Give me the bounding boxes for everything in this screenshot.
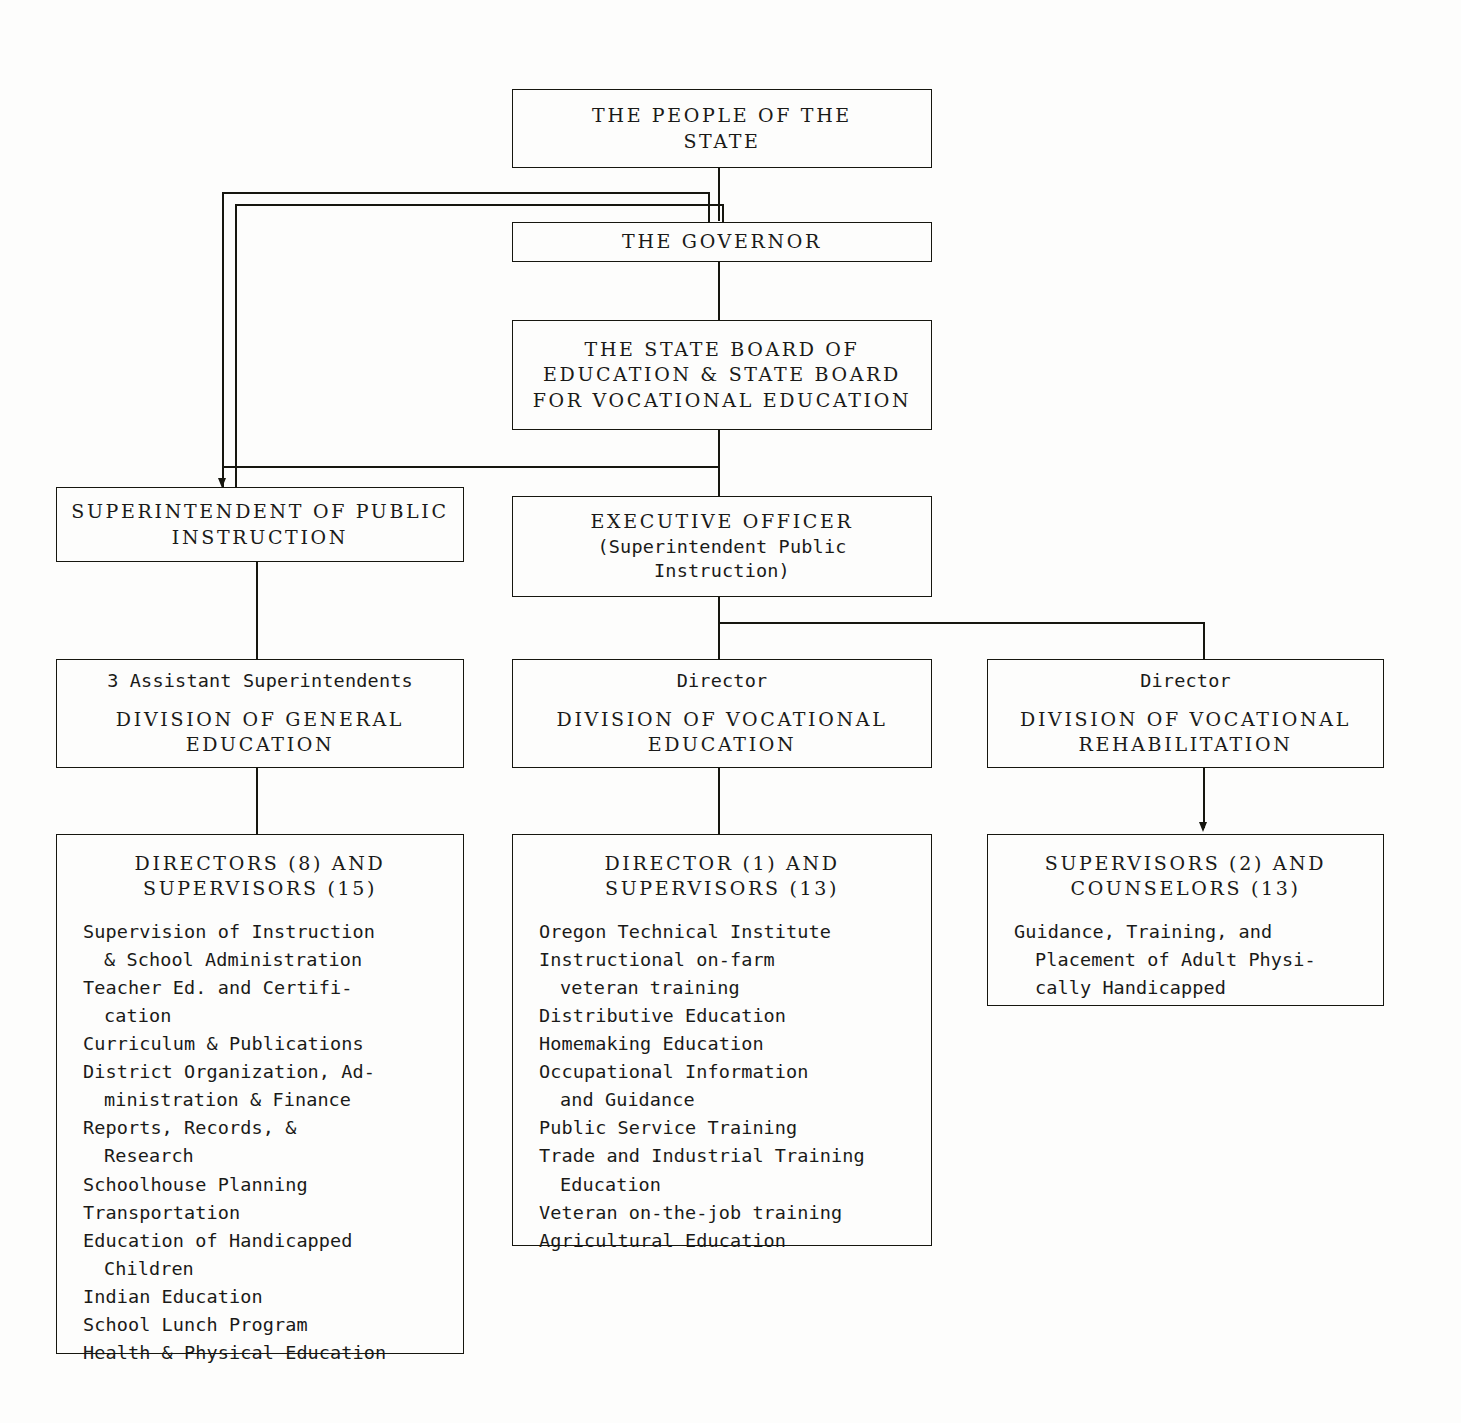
connector-rail-top-outer-drop: [708, 192, 710, 222]
staff-item: Homemaking Education: [539, 1030, 931, 1058]
staff-item: and Guidance: [539, 1086, 931, 1114]
node-body: SUPERINTENDENT OF PUBLIC INSTRUCTION: [57, 488, 463, 561]
node-the-governor[interactable]: THE GOVERNOR: [512, 222, 932, 262]
node-line: EDUCATION: [186, 732, 335, 757]
node-head: Director: [677, 669, 768, 694]
connector-rail-top-inner: [235, 204, 722, 206]
connector-rail-left-inner: [235, 204, 237, 491]
staff-item: Supervision of Instruction: [83, 918, 463, 946]
node-body: Director DIVISION OF VOCATIONAL EDUCATIO…: [513, 660, 931, 767]
connector-people-to-governor: [718, 168, 720, 221]
staff-item: Transportation: [83, 1199, 463, 1227]
staff-item: Veteran on-the-job training: [539, 1199, 931, 1227]
connector-superintendent-to-div-general: [256, 562, 258, 659]
connector-state-board-drop: [718, 430, 720, 466]
node-line: REHABILITATION: [1079, 732, 1293, 757]
node-vocational-rehabilitation-staff[interactable]: SUPERVISORS (2) AND COUNSELORS (13) Guid…: [987, 834, 1384, 1006]
connector-state-board-to-superintendent: [222, 466, 720, 468]
node-line: FOR VOCATIONAL EDUCATION: [533, 388, 912, 413]
node-executive-officer[interactable]: EXECUTIVE OFFICER (Superintendent Public…: [512, 496, 932, 597]
node-line: THE STATE BOARD OF: [585, 337, 860, 362]
staff-header: DIRECTOR (1) AND SUPERVISORS (13): [513, 849, 931, 902]
connector-executive-officer-branch-right: [718, 622, 1205, 624]
staff-header-line: SUPERVISORS (2) AND: [988, 851, 1383, 876]
node-body: EXECUTIVE OFFICER (Superintendent Public…: [513, 497, 931, 596]
node-division-of-vocational-rehabilitation[interactable]: Director DIVISION OF VOCATIONAL REHABILI…: [987, 659, 1384, 768]
node-body: THE STATE BOARD OF EDUCATION & STATE BOA…: [513, 321, 931, 429]
node-general-education-staff[interactable]: DIRECTORS (8) AND SUPERVISORS (15) Super…: [56, 834, 464, 1354]
staff-item: Children: [83, 1255, 463, 1283]
node-line: EDUCATION & STATE BOARD: [543, 362, 901, 387]
node-body: DIRECTORS (8) AND SUPERVISORS (15) Super…: [57, 835, 463, 1353]
arrow-into-rehab-staff: [1199, 822, 1207, 832]
connector-state-board-to-executive-officer: [718, 466, 720, 497]
staff-item: Curriculum & Publications: [83, 1030, 463, 1058]
node-head: Director: [1140, 669, 1231, 694]
node-body: SUPERVISORS (2) AND COUNSELORS (13) Guid…: [988, 835, 1383, 1005]
staff-header: SUPERVISORS (2) AND COUNSELORS (13): [988, 849, 1383, 902]
staff-item: Indian Education: [83, 1283, 463, 1311]
node-body: 3 Assistant Superintendents DIVISION OF …: [57, 660, 463, 767]
staff-item: Public Service Training: [539, 1114, 931, 1142]
staff-item: School Lunch Program: [83, 1311, 463, 1339]
staff-item: & School Administration: [83, 946, 463, 974]
staff-item: cally Handicapped: [1014, 974, 1383, 1002]
staff-item: Research: [83, 1142, 463, 1170]
node-division-of-vocational-education[interactable]: Director DIVISION OF VOCATIONAL EDUCATIO…: [512, 659, 932, 768]
connector-rail-top-inner-drop: [722, 204, 724, 222]
node-body: THE GOVERNOR: [513, 223, 931, 261]
node-line: DIVISION OF GENERAL: [116, 707, 404, 732]
staff-item: Distributive Education: [539, 1002, 931, 1030]
node-superintendent-of-public-instruction[interactable]: SUPERINTENDENT OF PUBLIC INSTRUCTION: [56, 487, 464, 562]
staff-item: veteran training: [539, 974, 931, 1002]
staff-header: DIRECTORS (8) AND SUPERVISORS (15): [57, 849, 463, 902]
node-the-people-of-the-state[interactable]: THE PEOPLE OF THE STATE: [512, 89, 932, 168]
node-line: THE PEOPLE OF THE: [592, 103, 852, 128]
node-line: DIVISION OF VOCATIONAL: [1020, 707, 1351, 732]
node-line: (Superintendent Public: [597, 535, 846, 560]
staff-item: Instructional on-farm: [539, 946, 931, 974]
staff-header-line: SUPERVISORS (13): [513, 876, 931, 901]
node-line: Instruction): [654, 559, 790, 584]
connector-div-rehab-to-staff: [1203, 768, 1205, 828]
node-body: THE PEOPLE OF THE STATE: [513, 90, 931, 167]
staff-item: Teacher Ed. and Certifi-: [83, 974, 463, 1002]
staff-item: Agricultural Education: [539, 1227, 931, 1255]
staff-item: Oregon Technical Institute: [539, 918, 931, 946]
node-head: 3 Assistant Superintendents: [107, 669, 413, 694]
staff-item: cation: [83, 1002, 463, 1030]
node-line: EXECUTIVE OFFICER: [590, 509, 853, 534]
connector-rail-left-outer: [222, 192, 224, 487]
staff-item: District Organization, Ad-: [83, 1058, 463, 1086]
staff-item: Schoolhouse Planning: [83, 1171, 463, 1199]
staff-header-line: DIRECTORS (8) AND: [57, 851, 463, 876]
staff-item: Reports, Records, &: [83, 1114, 463, 1142]
node-line: THE GOVERNOR: [622, 229, 822, 254]
node-line: STATE: [683, 129, 760, 154]
node-body: Director DIVISION OF VOCATIONAL REHABILI…: [988, 660, 1383, 767]
staff-item-list: Oregon Technical Institute Instructional…: [513, 918, 931, 1255]
staff-item: Education: [539, 1171, 931, 1199]
staff-item-list: Supervision of Instruction & School Admi…: [57, 918, 463, 1368]
node-vocational-education-staff[interactable]: DIRECTOR (1) AND SUPERVISORS (13) Oregon…: [512, 834, 932, 1246]
node-division-of-general-education[interactable]: 3 Assistant Superintendents DIVISION OF …: [56, 659, 464, 768]
staff-header-line: COUNSELORS (13): [988, 876, 1383, 901]
node-line: EDUCATION: [648, 732, 797, 757]
connector-div-general-to-staff: [256, 768, 258, 834]
node-line: SUPERINTENDENT OF PUBLIC: [71, 499, 448, 524]
connector-governor-to-state-board: [718, 262, 720, 320]
connector-rail-top-outer: [222, 192, 710, 194]
staff-item: Guidance, Training, and: [1014, 918, 1383, 946]
node-body: DIRECTOR (1) AND SUPERVISORS (13) Oregon…: [513, 835, 931, 1245]
connector-executive-officer-drop: [718, 597, 720, 624]
staff-item: Education of Handicapped: [83, 1227, 463, 1255]
staff-header-line: DIRECTOR (1) AND: [513, 851, 931, 876]
staff-item: Health & Physical Education: [83, 1339, 463, 1367]
staff-header-line: SUPERVISORS (15): [57, 876, 463, 901]
connector-div-vocational-to-staff: [718, 768, 720, 834]
node-state-board-of-education[interactable]: THE STATE BOARD OF EDUCATION & STATE BOA…: [512, 320, 932, 430]
connector-executive-officer-to-div-rehab: [1203, 622, 1205, 659]
node-line: INSTRUCTION: [172, 525, 348, 550]
connector-executive-officer-to-div-vocational: [718, 622, 720, 659]
staff-item: Occupational Information: [539, 1058, 931, 1086]
